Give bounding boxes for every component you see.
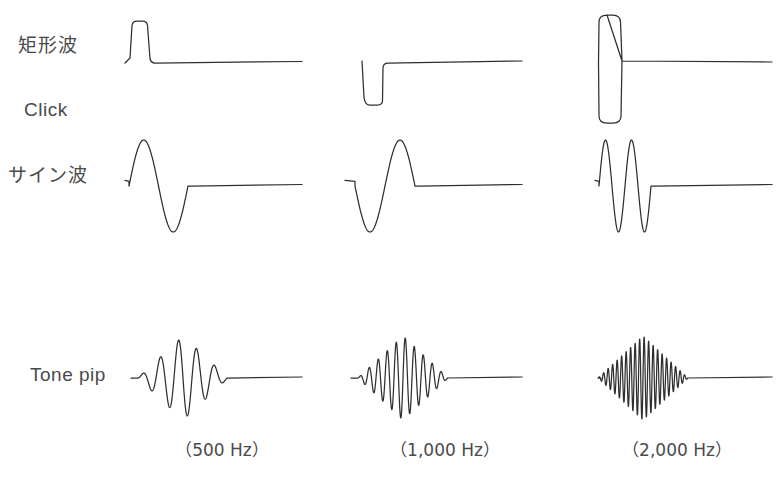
- trace-tonepip-1000: [351, 338, 522, 418]
- trace-sine-1000: [345, 140, 522, 232]
- trace-square-2000: [599, 15, 773, 123]
- trace-tonepip-500: [131, 340, 302, 416]
- row-label-click: Click: [24, 99, 68, 121]
- trace-sine-500: [125, 140, 302, 232]
- trace-square-1000: [362, 61, 522, 105]
- row-label-sine-wave: サイン波: [8, 160, 88, 187]
- trace-square-500: [125, 21, 302, 63]
- row-label-square-wave: 矩形波: [18, 30, 78, 57]
- row-label-tone-pip: Tone pip: [30, 364, 106, 386]
- trace-group-sine-wave: [125, 140, 772, 232]
- trace-tonepip-2000: [598, 337, 772, 419]
- waveform-figure: 矩形波 Click サイン波 Tone pip （500 Hz） （1,000 …: [0, 0, 783, 495]
- column-label-1000hz: （1,000 Hz）: [378, 436, 512, 461]
- trace-group-tone-pip: [131, 337, 772, 419]
- trace-sine-2000: [595, 140, 772, 232]
- column-label-2000hz: （2,000 Hz）: [610, 436, 744, 461]
- waveform-traces: [0, 0, 783, 495]
- column-label-500hz: （500 Hz）: [160, 436, 284, 461]
- trace-group-square-wave: [125, 15, 772, 123]
